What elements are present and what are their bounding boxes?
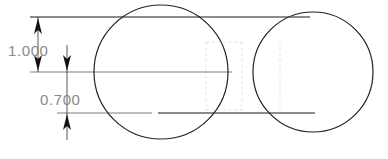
dimension-1000-label: 1.000	[8, 42, 49, 59]
technical-drawing-canvas: 1.000 0.700	[0, 0, 388, 159]
drawing-svg: 1.000 0.700	[0, 0, 388, 159]
right-circle	[253, 12, 373, 132]
hidden-construction-rectangle	[206, 42, 280, 110]
dimension-1000[interactable]: 1.000	[8, 17, 49, 72]
dimension-0700-label: 0.700	[40, 91, 81, 108]
dimension-0700[interactable]: 0.700	[40, 45, 81, 140]
